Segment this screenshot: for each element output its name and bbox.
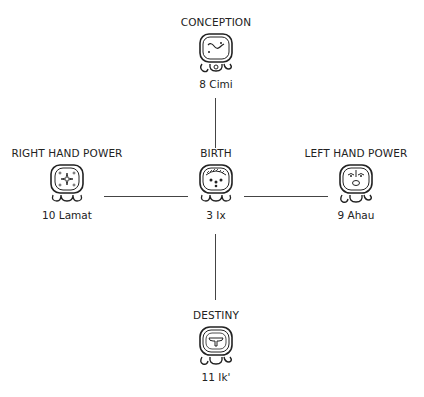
node-title: CONCEPTION <box>146 16 286 29</box>
node-conception: CONCEPTION 8 Cimi <box>146 16 286 91</box>
node-title: DESTINY <box>146 309 286 322</box>
ahau-glyph-icon <box>334 163 378 207</box>
node-right-hand-power: RIGHT HAND POWER 10 Lamat <box>0 147 137 222</box>
node-destiny: DESTINY 11 Ik' <box>146 309 286 384</box>
day-label: 11 Ik' <box>146 371 286 384</box>
lamat-glyph-icon <box>45 163 89 207</box>
node-title: BIRTH <box>146 147 286 160</box>
node-title: LEFT HAND POWER <box>286 147 424 160</box>
day-label: 10 Lamat <box>0 209 137 222</box>
cimi-glyph-icon <box>194 32 238 76</box>
ik-glyph-icon <box>194 325 238 369</box>
ix-glyph-icon <box>194 163 238 207</box>
day-label: 9 Ahau <box>286 209 424 222</box>
day-label: 3 Ix <box>146 209 286 222</box>
node-title: RIGHT HAND POWER <box>0 147 137 160</box>
day-label: 8 Cimi <box>146 78 286 91</box>
connector-bottom <box>215 234 216 300</box>
node-birth: BIRTH 3 Ix <box>146 147 286 222</box>
connector-top <box>215 98 216 148</box>
node-left-hand-power: LEFT HAND POWER 9 Ahau <box>286 147 424 222</box>
